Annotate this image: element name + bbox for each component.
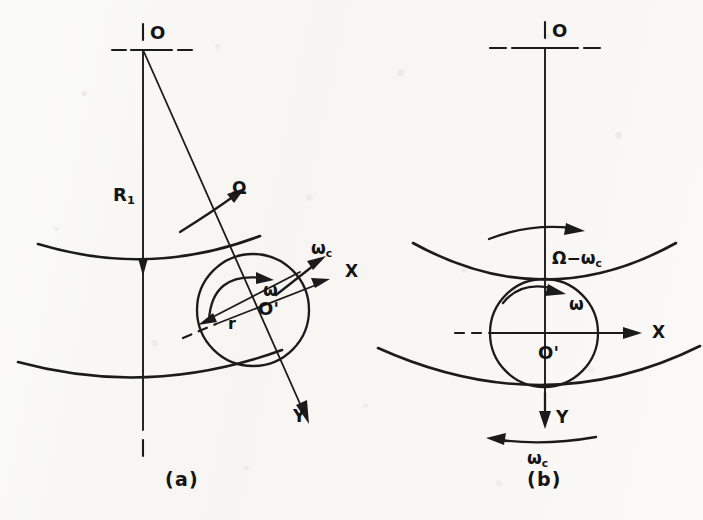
panel-a-group: [18, 24, 330, 456]
panel-b-label-axis-x: X: [652, 324, 665, 341]
panel-a-radial-line: [144, 52, 305, 415]
panel-b-label-relative-speed-sub: c: [595, 257, 601, 270]
panel-a-label-pitch-radius: R1: [113, 186, 135, 207]
panel-b-label-origin: O: [552, 22, 568, 40]
panel-a-label-pitch-radius-main: R: [113, 184, 127, 205]
panel-a-inner-raceway: [18, 350, 282, 377]
panel-a-label-axis-x: X: [345, 263, 358, 280]
panel-b-label-axis-y: Y: [556, 409, 568, 426]
panel-b-label-cage-speed: ωc: [527, 450, 548, 470]
panel-b-origin-crossmark: [490, 22, 600, 48]
figure-canvas: O R1 Ω ω ωc X Y r O' (a) O Ω−ωc ω X O' Y…: [0, 0, 703, 520]
panel-b-ball-spin-arrow: [503, 284, 566, 303]
panel-a-label-ball-spin: ω: [263, 282, 278, 299]
panel-a-caption: (a): [165, 470, 199, 489]
panel-a-label-cage-speed: ωc: [311, 240, 332, 260]
panel-b-label-cage-speed-main: ω: [527, 448, 542, 468]
panel-b-label-relative-speed: Ω−ωc: [552, 250, 602, 270]
panel-b-label-relative-speed-main: Ω−ω: [552, 248, 595, 268]
panel-b-Y-axis-arrow: [539, 393, 551, 429]
panel-b-label-ball-center: O': [538, 344, 559, 362]
panel-a-label-ball-radius: r: [228, 316, 236, 332]
panel-a-label-origin: O: [150, 24, 166, 42]
panel-b-X-axis: [455, 327, 642, 339]
panel-a-X-axis: [183, 285, 316, 338]
panel-a-label-axis-y: Y: [293, 408, 305, 425]
panel-a-label-pitch-radius-sub: 1: [127, 193, 135, 207]
panel-b-cage-velocity-arrow: [486, 433, 596, 445]
panel-a-R1-arrowhead: [138, 258, 148, 276]
panel-a-label-cage-omega: Ω: [232, 180, 246, 197]
panel-a-label-ball-center: O': [258, 300, 279, 318]
panel-b-group: [378, 22, 700, 445]
panel-a-label-cage-speed-main: ω: [311, 238, 326, 258]
panel-b-relative-rotation-arrow: [489, 223, 585, 239]
panel-b-caption: (b): [527, 470, 562, 489]
panel-a-label-cage-speed-sub: c: [326, 247, 332, 260]
panel-b-label-ball-spin: ω: [569, 296, 584, 313]
